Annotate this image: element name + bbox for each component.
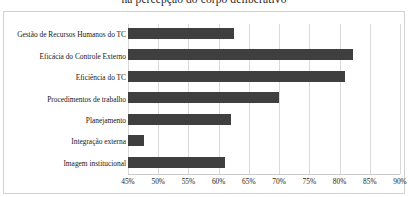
category-label: Imagem institucional bbox=[4, 159, 126, 168]
x-axis-tick-labels: 45%50%55%60%65%70%75%80%85%90% bbox=[128, 177, 400, 191]
plot-area bbox=[128, 24, 400, 174]
x-tick-label: 65% bbox=[242, 177, 256, 186]
x-tick-label: 60% bbox=[212, 177, 226, 186]
category-label: Integração externa bbox=[4, 137, 126, 146]
bar bbox=[128, 71, 345, 82]
bar bbox=[128, 135, 144, 146]
bar-row bbox=[128, 153, 400, 174]
bar bbox=[128, 92, 279, 103]
category-label: Eficácia do Controle Externo bbox=[4, 52, 126, 61]
category-label: Gestão de Recursos Humanos do TC bbox=[4, 30, 126, 39]
bar bbox=[128, 114, 231, 125]
x-tick-label: 80% bbox=[333, 177, 347, 186]
bar-row bbox=[128, 88, 400, 109]
category-label: Eficiência do TC bbox=[4, 73, 126, 82]
bar bbox=[128, 157, 225, 168]
bar bbox=[128, 49, 353, 60]
bar-row bbox=[128, 131, 400, 152]
x-tick-label: 75% bbox=[303, 177, 317, 186]
bar-row bbox=[128, 110, 400, 131]
bar-row bbox=[128, 45, 400, 66]
x-tick-label: 45% bbox=[121, 177, 135, 186]
bar-series bbox=[128, 24, 400, 174]
x-tick-label: 85% bbox=[363, 177, 377, 186]
bar bbox=[128, 28, 234, 39]
bar-row bbox=[128, 67, 400, 88]
x-tick-label: 55% bbox=[182, 177, 196, 186]
x-axis-line bbox=[128, 174, 400, 175]
category-axis-labels: Gestão de Recursos Humanos do TCEficácia… bbox=[4, 24, 126, 174]
chart-title: na percepção do corpo deliberativo bbox=[0, 0, 408, 5]
x-tick-label: 50% bbox=[151, 177, 165, 186]
x-tick-label: 70% bbox=[272, 177, 286, 186]
category-label: Planejamento bbox=[4, 116, 126, 125]
bar-chart: na percepção do corpo deliberativo Gestã… bbox=[0, 0, 408, 197]
bar-row bbox=[128, 24, 400, 45]
x-tick-label: 90% bbox=[393, 177, 407, 186]
category-label: Procedimentos de trabalho bbox=[4, 95, 126, 104]
